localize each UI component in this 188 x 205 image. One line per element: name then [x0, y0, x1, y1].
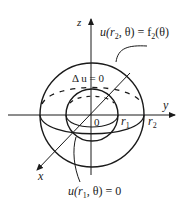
- inner-bc-u: u(r: [68, 184, 83, 198]
- origin-label: 0: [94, 116, 100, 128]
- spherical-shell-diagram: z y x 0 Δ u = 0 r1 r2 u(r2, θ) = f2(θ) u…: [0, 0, 188, 205]
- outer-bc-mid: , θ) = f: [119, 25, 152, 39]
- x-axis-label: x: [37, 169, 44, 183]
- y-axis-label: y: [162, 98, 169, 112]
- laplace-equation: Δ u = 0: [72, 72, 104, 84]
- inner-radius-sub: 1: [126, 121, 130, 130]
- inner-bc-leader: [74, 137, 80, 182]
- inner-equator-front: [66, 115, 118, 127]
- outer-bc-end: (θ): [155, 25, 169, 39]
- inner-boundary-condition: u(r1, θ) = 0: [68, 184, 121, 200]
- outer-bc-u: u(r: [100, 25, 115, 39]
- outer-boundary-condition: u(r2, θ) = f2(θ): [100, 25, 169, 41]
- inner-bc-end: , θ) = 0: [87, 184, 122, 198]
- outer-bc-leader: [116, 46, 147, 62]
- diagram-canvas: z y x 0 Δ u = 0 r1 r2 u(r2, θ) = f2(θ) u…: [0, 0, 188, 205]
- z-axis-label: z: [76, 16, 82, 28]
- outer-radius-label: r2: [148, 114, 157, 130]
- outer-radius-sub: 2: [153, 121, 157, 130]
- inner-radius-label: r1: [121, 114, 130, 130]
- outer-equator-back: [42, 88, 142, 105]
